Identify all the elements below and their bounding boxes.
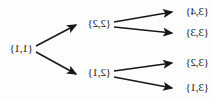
edge-root-to-n22 [36, 25, 76, 46]
figure-canvas: {3,4} {3,3} {3,2} {3,1} {2,2} {2,1} {1,1… [0, 0, 212, 101]
edge-root-to-n21 [36, 52, 76, 74]
mirrored-figure-group: {3,4} {3,3} {3,2} {3,1} {2,2} {2,1} {1,1… [0, 0, 212, 101]
edge-n22-to-n34 [114, 12, 172, 22]
node-3-4: {3,4} [186, 5, 209, 18]
node-root-1-1: {1,1} [10, 42, 33, 55]
edge-n21-to-n31 [114, 77, 172, 88]
edge-n21-to-n32 [114, 63, 172, 71]
node-3-1: {3,1} [186, 81, 209, 94]
edge-n22-to-n33 [114, 27, 172, 33]
node-2-1: {2,1} [88, 66, 111, 79]
node-2-2: {2,2} [88, 17, 111, 30]
node-3-3: {3,3} [186, 26, 209, 39]
node-3-2: {3,2} [186, 56, 209, 69]
